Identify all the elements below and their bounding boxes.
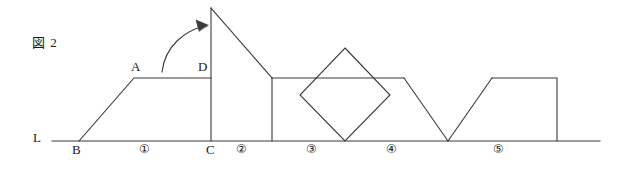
baseline-label-L: L bbox=[33, 131, 41, 144]
point-label-d: D bbox=[198, 60, 207, 73]
segment-label-4: ④ bbox=[386, 143, 397, 155]
point-label-c: C bbox=[206, 143, 215, 156]
figure-container: 図 2 L A D B C ① ② ③ ④ ⑤ bbox=[0, 0, 623, 169]
triangle-hypotenuse bbox=[211, 8, 272, 78]
diagonal-descending bbox=[404, 78, 448, 141]
segment-label-5: ⑤ bbox=[493, 143, 504, 155]
rotation-arrow-head bbox=[196, 20, 208, 31]
segment-label-3: ③ bbox=[306, 143, 317, 155]
point-label-b: B bbox=[72, 143, 81, 156]
diagonal-ascending bbox=[448, 78, 492, 141]
point-label-a: A bbox=[131, 60, 140, 73]
trapezoid-left bbox=[79, 78, 211, 141]
diamond-square bbox=[300, 48, 390, 141]
figure-caption: 図 2 bbox=[32, 36, 58, 49]
segment-label-2: ② bbox=[236, 143, 247, 155]
rectangle-block-five bbox=[492, 78, 557, 141]
segment-label-1: ① bbox=[139, 143, 150, 155]
